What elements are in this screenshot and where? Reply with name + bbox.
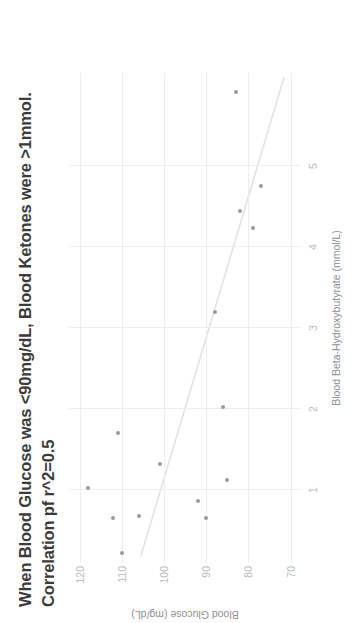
x-tick-label: 4 [307, 244, 319, 250]
gridline-vertical [69, 408, 301, 409]
y-tick-label: 110 [116, 566, 128, 583]
chart-title: When Blood Glucose was <90mg/dL, Blood K… [14, 47, 37, 607]
x-tick-label: 5 [307, 163, 319, 169]
gridline-vertical [69, 489, 301, 490]
y-axis-title: Blood Glucose (mg/dL) [131, 609, 238, 621]
chart-subtitle: Correlation pf r^2=0.5 [37, 47, 60, 607]
scatter-chart-figure: When Blood Glucose was <90mg/dL, Blood K… [0, 0, 359, 623]
gridline-horizontal [122, 73, 123, 563]
gridline-vertical [69, 327, 301, 328]
y-tick-label: 90 [200, 566, 212, 578]
y-tick-label: 100 [158, 566, 170, 584]
chart-title-block: When Blood Glucose was <90mg/dL, Blood K… [14, 47, 61, 607]
data-point [213, 310, 217, 314]
x-tick-label: 3 [307, 325, 319, 331]
y-tick-label: 120 [74, 566, 86, 584]
data-point [158, 462, 162, 466]
y-tick-label: 80 [242, 566, 254, 578]
rotated-figure-wrapper: When Blood Glucose was <90mg/dL, Blood K… [0, 0, 359, 623]
data-point [234, 90, 238, 94]
y-tick-label: 70 [285, 566, 297, 578]
gridline-horizontal [80, 73, 81, 563]
data-point [238, 209, 242, 213]
plot-area [69, 73, 301, 563]
gridline-horizontal [206, 73, 207, 563]
gridline-vertical [69, 246, 301, 247]
gridline-horizontal [291, 73, 292, 563]
x-tick-label: 1 [307, 487, 319, 493]
gridline-vertical [69, 165, 301, 166]
gridline-horizontal [164, 73, 165, 563]
data-point [137, 514, 141, 518]
data-point [251, 226, 255, 230]
data-point [259, 184, 263, 188]
x-axis-title: Blood Beta-Hydroxybutyrate (mmol/L) [330, 73, 342, 563]
x-tick-label: 2 [307, 406, 319, 412]
data-point [204, 516, 208, 520]
gridline-horizontal [248, 73, 249, 563]
